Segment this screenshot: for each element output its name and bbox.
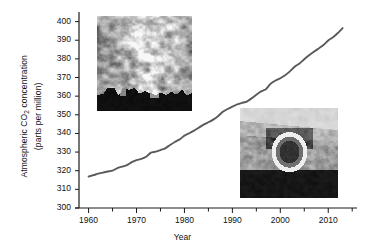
y-axis-title: Atmospheric CO2 concentration (parts per…: [19, 31, 44, 201]
y-axis-tick-label: 380: [45, 53, 71, 63]
x-axis-tick-label: 1990: [212, 215, 252, 225]
co2-concentration-chart: Atmospheric CO2 concentration (parts per…: [0, 0, 365, 252]
y-axis-title-subscript: 2: [23, 110, 30, 114]
x-axis-tick-label: 2000: [260, 215, 300, 225]
x-axis-title: Year: [0, 232, 365, 242]
x-axis-tick-label: 1960: [69, 215, 109, 225]
y-axis-tick-label: 330: [45, 146, 71, 156]
y-axis-tick-label: 390: [45, 34, 71, 44]
y-axis-tick-label: 320: [45, 165, 71, 175]
y-axis-tick-label: 360: [45, 90, 71, 100]
y-axis-tick-label: 310: [45, 183, 71, 193]
x-axis-tick-label: 2010: [308, 215, 348, 225]
y-axis-tick-label: 340: [45, 127, 71, 137]
y-axis-tick-label: 300: [45, 202, 71, 212]
y-axis-title-part2: concentration: [19, 55, 29, 110]
y-axis-tick-label: 350: [45, 109, 71, 119]
x-axis-tick-label: 1970: [117, 215, 157, 225]
smokestack-photo-inset: [97, 16, 192, 111]
y-axis-title-units: (parts per million): [32, 31, 43, 201]
x-axis-tick-label: 1980: [164, 215, 204, 225]
car-exhaust-photo-inset: [240, 108, 338, 198]
y-axis-title-part1: Atmospheric CO: [19, 114, 29, 178]
y-axis-tick-label: 370: [45, 72, 71, 82]
y-axis-tick-label: 400: [45, 16, 71, 26]
